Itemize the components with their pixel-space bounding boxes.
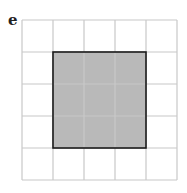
grid-diagram	[0, 0, 187, 193]
shaded-square	[53, 52, 146, 148]
